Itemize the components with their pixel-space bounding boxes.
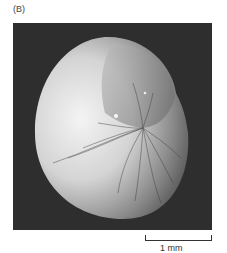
scale-bar <box>145 235 212 241</box>
micrograph-image <box>13 23 212 230</box>
scale-bar-label: 1 mm <box>160 243 183 253</box>
panel-label: (B) <box>13 4 25 14</box>
